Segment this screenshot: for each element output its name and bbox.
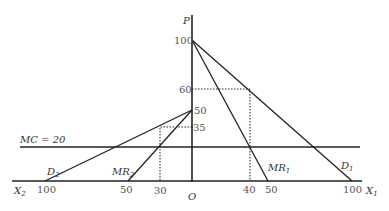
guide-market2 [160, 127, 192, 181]
price-tick-100: 100 [174, 35, 193, 46]
x2-axis-label: X2 [13, 185, 26, 198]
x2-tick-50: 50 [120, 184, 133, 195]
d1-label: D1 [340, 160, 354, 173]
x2-tick-100: 100 [37, 184, 56, 195]
price-tick-60: 60 [179, 84, 192, 95]
x1-axis-label: X1 [365, 185, 378, 198]
x2-tick-30: 30 [154, 185, 167, 196]
mr1-label: MR1 [267, 162, 290, 175]
diagram-canvas: P O X1 X2 100 60 50 35 40 50 100 100 50 … [0, 0, 389, 211]
origin-label: O [188, 191, 196, 202]
guide-market1 [192, 89, 250, 181]
x1-tick-40: 40 [243, 184, 256, 195]
price-tick-50: 50 [194, 105, 207, 116]
d1-curve [192, 40, 352, 181]
mc-label: MC = 20 [19, 134, 66, 145]
price-axis-label: P [182, 15, 190, 26]
price-tick-35: 35 [193, 122, 206, 133]
x1-tick-100: 100 [343, 184, 362, 195]
mr2-label: MR2 [111, 166, 135, 179]
x1-tick-50: 50 [265, 184, 278, 195]
